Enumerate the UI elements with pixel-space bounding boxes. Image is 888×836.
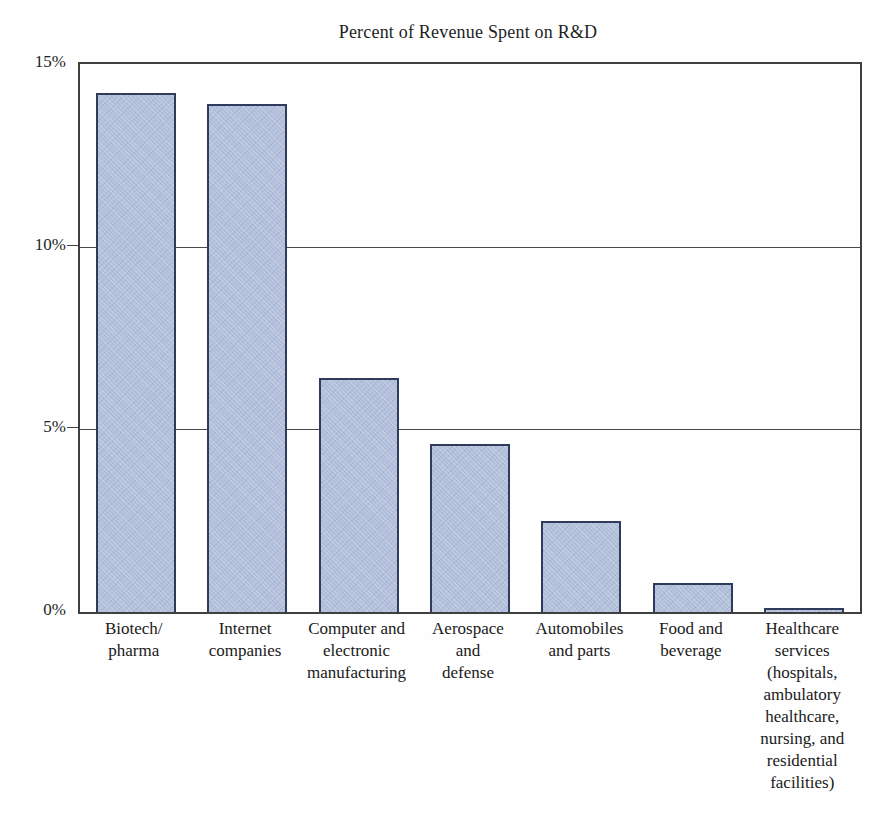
category-label-0: Biotech/ pharma xyxy=(78,618,189,794)
bar-6 xyxy=(764,608,844,612)
category-labels: Biotech/ pharmaInternet companiesCompute… xyxy=(78,618,858,794)
bar-5 xyxy=(653,583,733,612)
y-tick-label-5: 5% xyxy=(0,416,66,438)
category-label-4: Automobiles and parts xyxy=(524,618,635,794)
y-tick-label-0: 0% xyxy=(0,599,66,621)
category-label-3: Aerospace and defense xyxy=(412,618,523,794)
bar-4 xyxy=(541,521,621,612)
bar-slot-1 xyxy=(191,64,302,612)
bar-1 xyxy=(207,104,287,612)
bar-slot-6 xyxy=(749,64,860,612)
bar-slot-4 xyxy=(526,64,637,612)
bar-slot-5 xyxy=(637,64,748,612)
category-label-6: Healthcare services (hospitals, ambulato… xyxy=(747,618,858,794)
y-tick-label-15: 15% xyxy=(0,51,66,73)
category-label-2: Computer and electronic manufacturing xyxy=(301,618,412,794)
rd-spending-bar-chart: Percent of Revenue Spent on R&D 15%10%5%… xyxy=(0,0,888,836)
y-tick-label-10: 10% xyxy=(0,234,66,256)
chart-title: Percent of Revenue Spent on R&D xyxy=(78,22,858,43)
y-tick-mark-5 xyxy=(67,427,78,428)
category-label-1: Internet companies xyxy=(189,618,300,794)
bars-row xyxy=(80,64,860,612)
bar-slot-2 xyxy=(303,64,414,612)
bar-0 xyxy=(96,93,176,612)
plot-area xyxy=(78,62,862,614)
category-label-5: Food and beverage xyxy=(635,618,746,794)
bar-2 xyxy=(319,378,399,612)
y-tick-mark-10 xyxy=(67,245,78,246)
bar-slot-3 xyxy=(414,64,525,612)
bar-slot-0 xyxy=(80,64,191,612)
bar-3 xyxy=(430,444,510,612)
